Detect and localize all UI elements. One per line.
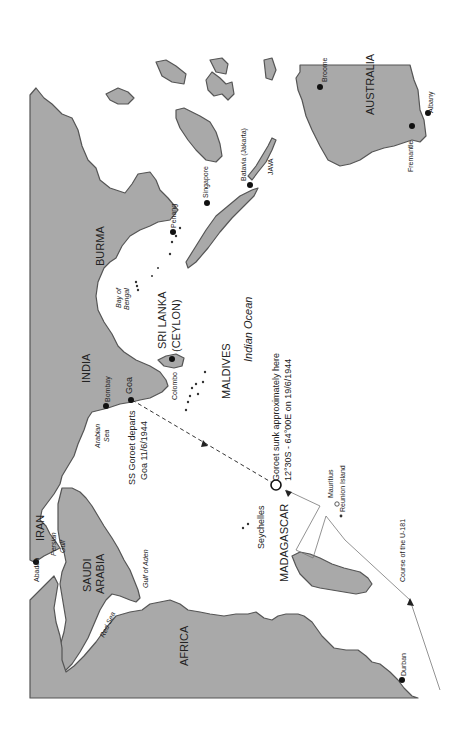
label-sri-lanka: SRI LANKA	[156, 291, 168, 349]
new-guinea-islands	[210, 58, 228, 74]
label-departure-2: Goa 11/6/1944	[139, 421, 149, 480]
label-fremantle: Fremantle	[407, 140, 414, 172]
label-penang: Penang	[170, 204, 178, 228]
label-africa: AFRICA	[178, 625, 190, 666]
label-u181-course: Course of the U-181	[399, 519, 406, 582]
label-gulf: Gulf	[59, 539, 66, 553]
label-broome: Broome	[321, 57, 328, 82]
label-madagascar: MADAGASCAR	[278, 504, 290, 582]
philippines-islands	[106, 88, 134, 104]
label-arabia: ARABIA	[94, 553, 106, 594]
label-sinking-1: Goroet sunk approximately here	[271, 353, 281, 481]
label-saudi: SAUDI	[81, 558, 93, 592]
label-batavia: Batavia (Jakarta)	[240, 128, 248, 181]
label-reunion: Reunion Island	[339, 465, 346, 512]
label-departure-1: SS Goroet departs	[127, 410, 137, 485]
island-dots	[135, 227, 343, 529]
label-australia: AUSTRALIA	[364, 53, 376, 115]
indian-ocean-map: AFRICA SAUDI ARABIA IRAN INDIA BURMA SRI…	[0, 0, 468, 742]
label-java: JAVA	[267, 158, 274, 175]
label-sea: Sea	[103, 429, 110, 442]
indochina-islands	[156, 60, 186, 84]
label-abadan: Abadan	[33, 558, 40, 582]
label-ceylon: (CEYLON)	[170, 299, 182, 352]
label-seychelles: Seychelles	[256, 505, 266, 549]
label-bay-of: Bay of	[115, 287, 123, 308]
label-durban: Durban	[400, 653, 407, 676]
label-burma: BURMA	[94, 226, 106, 266]
label-maldives: MALDIVES	[220, 343, 232, 399]
label-persian: Persian	[50, 532, 57, 556]
label-singapore: Singapore	[202, 166, 210, 198]
madagascar-island	[292, 552, 372, 594]
u181-arrow-1	[407, 598, 414, 606]
borneo-island	[176, 108, 222, 162]
label-arabian: Arabian	[94, 424, 101, 449]
timor-islands	[264, 58, 276, 80]
label-gulf-of-aden: Gulf of Aden	[142, 549, 149, 588]
label-india: INDIA	[80, 353, 92, 383]
label-iran: IRAN	[34, 515, 46, 541]
label-mauritius: Mauritius	[327, 469, 334, 498]
goroet-route-arrow	[201, 440, 208, 447]
label-bombay: Bombay	[104, 376, 112, 402]
u181-arrow-2	[285, 490, 292, 497]
label-bengal: Bengal	[123, 288, 131, 310]
label-goa: Goa	[124, 377, 134, 394]
label-indian-ocean: Indian Ocean	[242, 297, 254, 362]
sulawesi-island	[206, 72, 234, 100]
sumatra-island	[186, 188, 258, 268]
label-albany: Albany	[427, 91, 435, 113]
label-colombo: Colombo	[171, 372, 178, 400]
label-sinking-2: 12°30S - 64°00E on 19/6/1944	[283, 359, 293, 481]
